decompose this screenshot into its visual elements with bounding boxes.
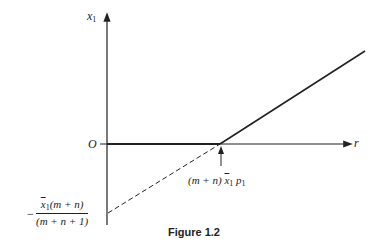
x-axis-label: r — [354, 136, 359, 151]
intercept-label: x1(m + n) (m + n + 1) — [36, 198, 88, 227]
kink-label: (m + n) x1 p1 — [188, 174, 246, 188]
intercept-sign: − — [27, 207, 34, 222]
y-axis-label: x1 — [87, 9, 96, 24]
origin-label: O — [88, 137, 97, 152]
solid-line — [220, 51, 365, 144]
figure-caption: Figure 1.2 — [168, 226, 220, 238]
